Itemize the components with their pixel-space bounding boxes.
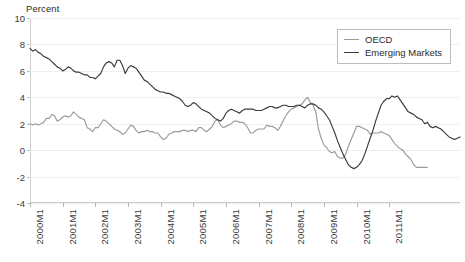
legend-item-oecd: OECD xyxy=(344,33,442,46)
x-tick-label: 2007M1 xyxy=(263,209,274,245)
x-tick-mark xyxy=(259,203,260,207)
x-tick-label: 2003M1 xyxy=(132,209,143,245)
chart-legend: OECD Emerging Markets xyxy=(337,29,451,64)
x-tick-mark xyxy=(161,203,162,207)
x-tick-label: 2005M1 xyxy=(197,209,208,245)
legend-swatch-emerging-markets xyxy=(344,52,359,53)
x-tick-label: 2001M1 xyxy=(67,209,78,245)
x-tick-label: 2004M1 xyxy=(165,209,176,245)
x-tick-label: 2008M1 xyxy=(295,209,306,245)
x-tick-label: 2002M1 xyxy=(99,209,110,245)
y-tick-label: -4 xyxy=(17,198,25,209)
y-tick-label: 6 xyxy=(20,65,25,76)
x-tick-mark xyxy=(324,203,325,207)
y-tick-label: 4 xyxy=(20,92,25,103)
x-tick-mark xyxy=(95,203,96,207)
y-tick-label: 8 xyxy=(20,39,25,50)
y-axis-title: Percent xyxy=(26,3,59,14)
x-tick-mark xyxy=(63,203,64,207)
legend-item-emerging-markets: Emerging Markets xyxy=(344,46,442,59)
x-tick-label: 2010M1 xyxy=(361,209,372,245)
legend-swatch-oecd xyxy=(344,39,359,40)
x-tick-label: 2009M1 xyxy=(328,209,339,245)
series-line-emerging-markets xyxy=(30,48,460,168)
x-tick-mark xyxy=(357,203,358,207)
series-line-oecd xyxy=(30,97,427,167)
x-tick-label: 2000M1 xyxy=(34,209,45,245)
y-tick-label: -2 xyxy=(17,171,25,182)
x-tick-mark xyxy=(30,203,31,207)
x-tick-label: 2006M1 xyxy=(230,209,241,245)
legend-label-oecd: OECD xyxy=(365,34,392,45)
x-tick-mark xyxy=(128,203,129,207)
x-tick-mark xyxy=(226,203,227,207)
percent-inflation-line-chart: Percent 1086420-2-4 2000M12001M12002M120… xyxy=(0,0,465,262)
x-tick-mark xyxy=(291,203,292,207)
y-tick-label: 0 xyxy=(20,145,25,156)
y-tick-label: 2 xyxy=(20,118,25,129)
legend-label-emerging-markets: Emerging Markets xyxy=(365,47,442,58)
y-tick-label: 10 xyxy=(14,13,25,24)
x-tick-mark xyxy=(389,203,390,207)
x-tick-label: 2011M1 xyxy=(393,209,404,244)
x-tick-mark xyxy=(193,203,194,207)
